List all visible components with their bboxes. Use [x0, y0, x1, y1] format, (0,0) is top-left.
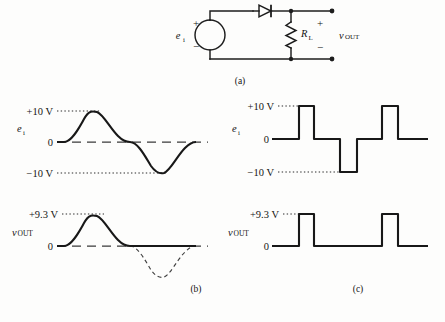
voltage-source-icon [195, 20, 225, 50]
panel-c-output-chart: +9.3 V 0 v OUT (c) [228, 209, 428, 295]
terminal-negative [330, 57, 335, 62]
resistor-icon [286, 22, 296, 48]
node-bottom [289, 57, 293, 61]
label-b-minus10: −10 V [27, 168, 54, 179]
source-label-subscript: i [183, 36, 185, 44]
source-minus-sign: − [193, 40, 199, 52]
terminal-positive [330, 9, 335, 14]
signal-label-c-output: v [228, 227, 233, 238]
signal-label-c-output-sub: OUT [234, 229, 250, 238]
source-label: e [176, 30, 181, 41]
label-c-plus10: +10 V [248, 101, 275, 112]
panel-c-input-chart: +10 V 0 −10 V e i [232, 101, 428, 178]
waveform-b-output [57, 215, 196, 246]
waveform-c-output [272, 214, 428, 246]
panel-b-input-chart: +10 V 0 −10 V e i [17, 106, 208, 179]
label-c-plus93: +9.3 V [250, 209, 279, 220]
signal-label-b-input-sub: i [23, 129, 25, 137]
signal-label-b-output-sub: OUT [18, 229, 34, 238]
resistor-label: R [300, 28, 308, 39]
wire-top-left [210, 11, 253, 20]
signal-label-b-output: v [12, 227, 17, 238]
node-top [289, 9, 293, 13]
label-b-plus10: +10 V [27, 106, 54, 117]
label-c-zero-out: 0 [264, 241, 269, 252]
diode-icon [259, 5, 271, 17]
panel-b-output-chart: +9.3 V 0 v OUT (b) [12, 209, 208, 295]
circuit-diagram: + − e i R L + − v OUT (a) [176, 5, 360, 87]
output-label: v [339, 30, 344, 41]
signal-label-c-input-sub: i [238, 129, 240, 137]
label-c-zero: 0 [264, 134, 269, 145]
caption-a: (a) [235, 76, 246, 87]
caption-b: (b) [190, 284, 201, 295]
label-c-minus10: −10 V [248, 167, 275, 178]
signal-label-b-input: e [17, 123, 22, 134]
output-plus-sign: + [317, 17, 323, 29]
signal-label-c-input: e [232, 123, 237, 134]
waveform-c-input [272, 106, 428, 172]
figure-canvas: + − e i R L + − v OUT (a) [0, 0, 445, 322]
waveform-b-blocked-half [130, 246, 196, 277]
output-minus-sign: − [317, 41, 323, 53]
label-b-plus93: +9.3 V [29, 209, 58, 220]
caption-c: (c) [353, 284, 364, 295]
figure-svg: + − e i R L + − v OUT (a) [0, 0, 445, 322]
output-label-subscript: OUT [345, 33, 360, 41]
label-b-zero: 0 [48, 137, 53, 148]
label-b-zero-out: 0 [48, 241, 53, 252]
source-plus-sign: + [193, 17, 199, 29]
resistor-label-subscript: L [309, 34, 313, 42]
